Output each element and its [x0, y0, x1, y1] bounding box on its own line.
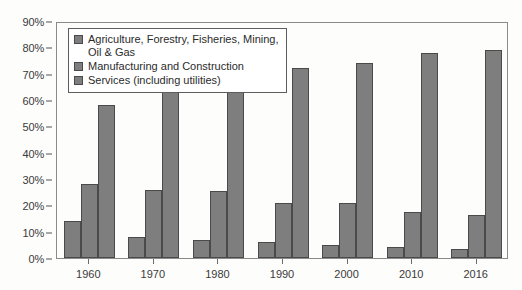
legend-swatch-icon	[74, 76, 83, 85]
y-tick-mark	[46, 206, 52, 207]
bar[interactable]	[64, 221, 81, 258]
x-tick-label: 1970	[141, 268, 165, 280]
y-tick-label: 50%	[23, 122, 44, 133]
y-tick-label: 20%	[23, 201, 44, 212]
x-tick-mark	[282, 259, 283, 264]
y-tick-mark	[46, 259, 52, 260]
bar[interactable]	[275, 203, 292, 258]
legend-swatch-icon	[74, 35, 83, 44]
bar[interactable]	[81, 184, 98, 258]
chart-legend: Agriculture, Forestry, Fisheries, Mining…	[68, 28, 287, 93]
y-tick-mark	[46, 48, 52, 49]
x-tick-label: 2016	[463, 268, 487, 280]
bar[interactable]	[404, 212, 421, 258]
x-tick-mark	[476, 259, 477, 264]
legend-item[interactable]: Services (including utilities)	[74, 74, 279, 87]
bar[interactable]	[227, 82, 244, 258]
legend-item[interactable]: Manufacturing and Construction	[74, 60, 279, 73]
bar[interactable]	[322, 245, 339, 258]
y-axis: 0%10%20%30%40%50%60%70%80%90%	[0, 0, 56, 290]
legend-item-label: Services (including utilities)	[88, 74, 221, 87]
y-tick-mark	[46, 127, 52, 128]
y-tick-label: 60%	[23, 96, 44, 107]
x-tick-mark	[411, 259, 412, 264]
y-tick-label: 10%	[23, 227, 44, 238]
y-tick-label: 70%	[23, 69, 44, 80]
x-tick-label: 1990	[270, 268, 294, 280]
y-tick-mark	[46, 74, 52, 75]
y-tick-mark	[46, 232, 52, 233]
x-tick-label: 1980	[205, 268, 229, 280]
legend-item-label: Agriculture, Forestry, Fisheries, Mining…	[88, 33, 279, 59]
bar[interactable]	[451, 249, 468, 258]
bar[interactable]	[485, 50, 502, 258]
y-tick-mark	[46, 180, 52, 181]
x-tick-label: 2000	[334, 268, 358, 280]
bar[interactable]	[468, 215, 485, 258]
y-tick-label: 40%	[23, 148, 44, 159]
y-tick-mark	[46, 101, 52, 102]
legend-swatch-icon	[74, 62, 83, 71]
x-tick-label: 1960	[76, 268, 100, 280]
legend-item-label: Manufacturing and Construction	[88, 60, 244, 73]
y-tick-mark	[46, 22, 52, 23]
bar[interactable]	[421, 53, 438, 258]
x-tick-mark	[217, 259, 218, 264]
bar[interactable]	[258, 242, 275, 258]
legend-item[interactable]: Agriculture, Forestry, Fisheries, Mining…	[74, 33, 279, 59]
x-tick-mark	[153, 259, 154, 264]
bar[interactable]	[128, 237, 145, 258]
x-tick-mark	[88, 259, 89, 264]
x-tick-label: 2010	[399, 268, 423, 280]
plot-area: Agriculture, Forestry, Fisheries, Mining…	[56, 22, 508, 259]
bar[interactable]	[292, 68, 309, 258]
y-tick-label: 30%	[23, 175, 44, 186]
y-tick-mark	[46, 153, 52, 154]
bar[interactable]	[98, 105, 115, 258]
bar-group	[319, 23, 376, 258]
y-tick-label: 90%	[23, 17, 44, 28]
bar-group	[384, 23, 441, 258]
x-tick-mark	[347, 259, 348, 264]
bar[interactable]	[387, 247, 404, 258]
bar[interactable]	[193, 240, 210, 258]
bar[interactable]	[356, 63, 373, 258]
bar[interactable]	[145, 190, 162, 258]
x-axis: 1960197019801990200020102016	[56, 259, 508, 290]
bar-group	[448, 23, 505, 258]
bar[interactable]	[339, 203, 356, 258]
bar[interactable]	[210, 191, 227, 258]
bar[interactable]	[162, 84, 179, 258]
y-tick-label: 0%	[29, 254, 45, 265]
bar-chart: 0%10%20%30%40%50%60%70%80%90% Agricultur…	[0, 0, 522, 290]
y-tick-label: 80%	[23, 43, 44, 54]
